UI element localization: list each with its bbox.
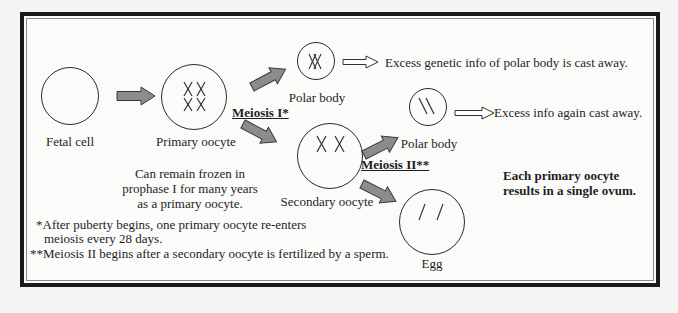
arrow-to-secondary-oocyte (239, 116, 281, 150)
polar-body-1-fate-text: Excess genetic info of polar body is cas… (385, 55, 628, 70)
egg-circle (399, 189, 465, 255)
fetal-cell-label: Fetal cell (46, 134, 94, 149)
summary-line-1: Each primary oocyte (503, 168, 636, 183)
frozen-note-line-1: Can remain frozen in (120, 166, 260, 181)
frozen-note-line-3: as a primary oocyte. (120, 196, 260, 211)
footnote-1-line-1: *After puberty begins, one primary oocyt… (36, 217, 306, 232)
fetal-cell-circle (41, 67, 99, 125)
hollow-arrow-1 (343, 56, 378, 68)
footnote-1-line-2: meiosis every 28 days. (44, 231, 162, 246)
meiosis-2-label: Meiosis II** (361, 157, 429, 172)
summary-line-2: results in a single ovum. (503, 183, 636, 198)
meiosis-1-label: Meiosis I* (232, 105, 289, 120)
polar-body-1-label: Polar body (289, 90, 346, 105)
summary-note: Each primary oocyte results in a single … (503, 168, 636, 198)
polar-body-2-circle (409, 88, 447, 126)
arrow-fetal-to-primary (117, 87, 155, 105)
frozen-note: Can remain frozen in prophase I for many… (120, 166, 260, 211)
primary-oocyte-circle (161, 64, 227, 130)
polar-body-2-fate-text: Excess info again cast away. (494, 105, 642, 120)
egg-label: Egg (422, 256, 443, 271)
hollow-arrow-2 (455, 107, 494, 119)
polar-body-2-label: Polar body (401, 136, 458, 151)
primary-oocyte-label: Primary oocyte (156, 134, 236, 149)
polar-body-1-circle (297, 42, 335, 80)
footnote-2: **Meiosis II begins after a secondary oo… (30, 246, 389, 261)
arrow-to-polar-body-1 (248, 61, 290, 95)
secondary-oocyte-circle (297, 123, 363, 189)
frozen-note-line-2: prophase I for many years (120, 181, 260, 196)
secondary-oocyte-label: Secondary oocyte (281, 194, 374, 209)
